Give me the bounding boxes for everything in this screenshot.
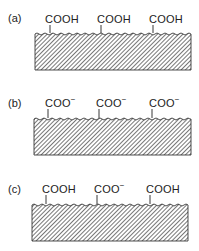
functional-group: COOH	[146, 181, 180, 195]
panel-b: (b) COO− COO− COO−	[0, 85, 199, 169]
functional-group: COOH	[45, 11, 79, 25]
panel-label: (c)	[8, 183, 21, 195]
functional-group: COO−	[94, 181, 125, 195]
panel-label: (a)	[8, 12, 21, 24]
functional-group: COOH	[149, 11, 183, 25]
surface-c	[0, 166, 199, 250]
functional-group: COOH	[42, 181, 76, 195]
panel-a: (a) COOH COOH COOH	[0, 0, 199, 84]
functional-group: COO−	[45, 95, 76, 109]
functional-group: COO−	[149, 95, 180, 109]
functional-group: COOH	[97, 11, 131, 25]
panel-label: (b)	[8, 97, 21, 109]
functional-group: COO−	[96, 95, 127, 109]
panel-c: (c) COOH COO− COOH	[0, 166, 199, 250]
